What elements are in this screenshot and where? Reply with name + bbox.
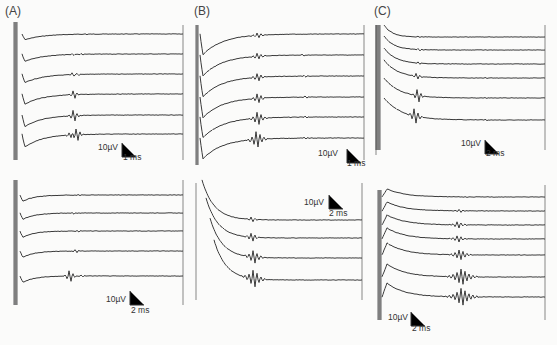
trace: [200, 74, 364, 97]
trace: [22, 34, 183, 40]
trace: [200, 112, 364, 137]
trace: [200, 53, 364, 76]
trace: [382, 264, 545, 284]
trace: [384, 78, 545, 102]
trace: [200, 132, 364, 159]
trace: [22, 73, 183, 83]
scale-time-a-top: 1 ms: [123, 152, 141, 162]
trace: [382, 189, 545, 197]
trace: [200, 33, 364, 55]
trace: [22, 54, 183, 62]
trace: [384, 36, 545, 51]
scale-amp-a-top: 10µV: [98, 142, 118, 152]
trace: [20, 195, 183, 202]
trace: [329, 195, 343, 209]
scale-time-b-top: 1 ms: [347, 158, 365, 168]
scale-amp-b-bot: 10µV: [304, 197, 324, 207]
trace: [22, 110, 183, 126]
scale-time-c-bot: 2 ms: [412, 323, 430, 333]
trace: [384, 48, 545, 64]
scale-amp-b-top: 10µV: [318, 148, 338, 158]
trace: [214, 240, 362, 287]
trace: [210, 218, 362, 263]
trace: [20, 213, 183, 220]
trace: [384, 60, 545, 79]
trace: [384, 25, 545, 37]
scale-time-b-bot: 2 ms: [329, 208, 347, 218]
trace: [382, 243, 545, 260]
trace: [384, 98, 545, 123]
trace: [200, 94, 364, 118]
trace: [20, 271, 183, 282]
trace: [20, 230, 183, 237]
scale-amp-c-top: 10µV: [461, 138, 481, 148]
scale-time-a-bot: 2 ms: [131, 305, 149, 315]
trace: [382, 215, 545, 228]
traces-canvas: 10µV 1 ms 10µV 1 ms 10µV 2 ms 10µV 2 ms …: [0, 0, 557, 345]
scale-amp-c-bot: 10µV: [388, 312, 408, 322]
trace: [130, 291, 144, 305]
scale-time-c-top: 2 ms: [486, 148, 504, 158]
trace: [382, 202, 545, 212]
trace: [382, 228, 545, 242]
scale-amp-a-bot: 10µV: [106, 294, 126, 304]
trace: [20, 250, 183, 257]
trace: [22, 91, 183, 104]
trace: [382, 283, 545, 305]
